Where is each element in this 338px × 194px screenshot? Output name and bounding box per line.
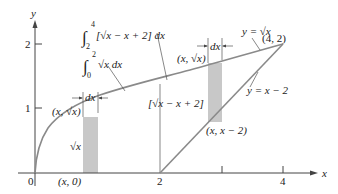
y-tick-2-label: 2 — [25, 38, 31, 50]
sqrt-curve-label: y = √x — [241, 25, 271, 37]
right-height-label: [√x − x + 2] — [148, 97, 204, 109]
y-tick-1-label: 1 — [25, 102, 31, 114]
x-tick-2-label: 2 — [157, 175, 163, 187]
svg-text:2: 2 — [86, 42, 90, 51]
x-tick-4-label: 4 — [280, 175, 286, 187]
svg-text:√x dx: √x dx — [98, 58, 122, 70]
right-rectangle-strip — [208, 63, 222, 122]
left-top-point-label: (x, √x) — [52, 105, 81, 118]
svg-text:4: 4 — [91, 20, 95, 29]
x-axis-label: x — [321, 167, 327, 179]
svg-text:2: 2 — [92, 50, 96, 59]
svg-text:0: 0 — [87, 71, 91, 80]
right-bottom-point-label: (x, x − 2) — [206, 124, 247, 137]
origin-label: 0 — [28, 175, 34, 187]
svg-text:dx: dx — [210, 40, 221, 52]
leader-sqrt-label — [252, 38, 260, 50]
area-between-curves-diagram: dx dx ∫ 2 4 [√x − x + 2] dx ∫ 0 2 √x dx … — [0, 0, 338, 194]
left-bottom-point-label: (x, 0) — [58, 175, 82, 188]
svg-text:[√x − x + 2] dx: [√x − x + 2] dx — [96, 29, 165, 41]
line-curve-label: y = x − 2 — [246, 84, 289, 96]
y-axis — [33, 20, 43, 186]
y-axis-label: y — [30, 7, 36, 19]
right-top-point-label: (x, √x) — [177, 52, 206, 65]
left-height-label: √x — [70, 140, 81, 152]
integral-bottom-label: ∫ 0 2 √x dx — [82, 50, 122, 80]
svg-text:dx: dx — [85, 91, 96, 103]
left-rectangle-strip — [83, 117, 98, 173]
integral-top-label: ∫ 2 4 [√x − x + 2] dx — [81, 20, 165, 51]
